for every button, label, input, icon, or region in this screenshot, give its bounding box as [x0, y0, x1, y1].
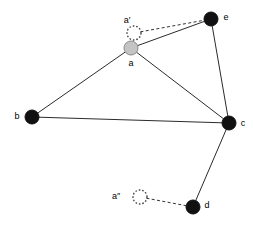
node-label-c: c	[241, 118, 246, 128]
node-label-b: b	[14, 111, 19, 121]
graph-canvas: aa′a″bcde	[0, 0, 253, 226]
node-label-a: a	[128, 58, 133, 68]
node-c[interactable]	[222, 116, 236, 130]
node-label-d: d	[204, 200, 209, 210]
node-app[interactable]	[133, 190, 147, 204]
node-e[interactable]	[204, 12, 218, 26]
node-label-app: a″	[112, 191, 121, 201]
edge-c-d	[196, 129, 227, 201]
node-ap[interactable]	[127, 26, 141, 40]
edge-c-e	[212, 25, 228, 116]
node-layer	[25, 12, 236, 214]
edge-ap-e	[140, 20, 204, 32]
graph-figure: aa′a″bcde	[0, 0, 253, 226]
edge-a-b	[37, 52, 125, 114]
node-d[interactable]	[186, 200, 200, 214]
edge-a-c	[136, 52, 224, 119]
node-label-e: e	[223, 12, 228, 22]
edge-b-c	[38, 117, 222, 123]
node-a[interactable]	[124, 41, 138, 55]
node-b[interactable]	[25, 110, 39, 124]
node-label-ap: a′	[124, 15, 131, 25]
edge-a-e	[137, 21, 205, 46]
edge-app-d	[146, 198, 186, 206]
